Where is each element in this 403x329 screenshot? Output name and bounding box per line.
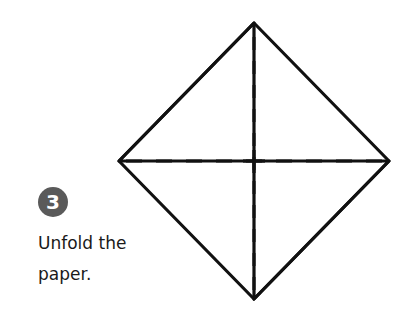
step-number-badge: 3 bbox=[38, 187, 68, 217]
step-instruction: Unfold the paper. bbox=[38, 228, 148, 290]
instruction-line-2: paper. bbox=[38, 259, 148, 290]
instruction-line-1: Unfold the bbox=[38, 228, 148, 259]
